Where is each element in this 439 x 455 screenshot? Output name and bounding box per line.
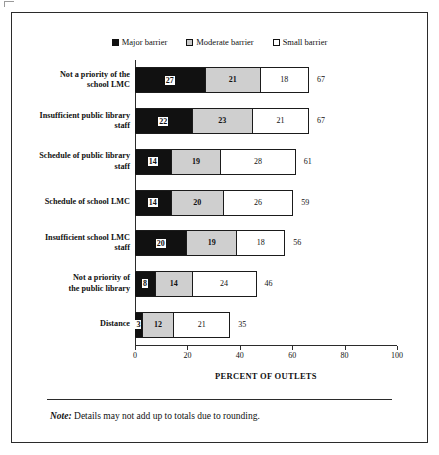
bar-segment-moderate: 14	[156, 272, 193, 296]
bar-segment-value: 22	[157, 116, 169, 127]
bar-row-total: 46	[265, 279, 273, 288]
note-divider	[47, 399, 392, 400]
stacked-bar: 31221	[135, 312, 230, 338]
bar-segment-value: 20	[155, 238, 167, 249]
bar-segment-small: 21	[253, 109, 308, 133]
bar-segment-small: 18	[237, 231, 284, 255]
x-axis-tick-label: 0	[133, 351, 137, 360]
x-axis-tick	[135, 346, 136, 350]
x-axis-title: PERCENT OF OUTLETS	[135, 371, 397, 381]
bar-row: 8142446	[135, 271, 419, 297]
bar-row: 14192861	[135, 149, 419, 175]
bar-row-total: 35	[238, 320, 246, 329]
legend-label-major: Major barrier	[122, 37, 168, 47]
legend-swatch-major-icon	[112, 39, 119, 46]
bar-segment-value: 24	[220, 280, 228, 288]
bar-segment-moderate: 19	[187, 231, 237, 255]
bar-segment-value: 20	[193, 199, 201, 207]
legend-item-small: Small barrier	[273, 37, 328, 47]
bar-segment-value: 12	[154, 321, 162, 329]
bar-segment-moderate: 12	[143, 313, 174, 337]
figure-note: Note: Details may not add up to totals d…	[50, 411, 260, 421]
bar-segment-moderate: 23	[193, 109, 253, 133]
bar-segment-value: 14	[147, 197, 159, 208]
y-axis-category-label: Insufficient school LMCstaff	[26, 233, 130, 254]
y-axis-category-label: Distance	[26, 319, 130, 330]
stacked-bar: 142026	[135, 190, 293, 216]
bar-segment-major: 3	[135, 313, 143, 337]
x-axis-tick	[397, 346, 398, 350]
bar-segment-small: 21	[174, 313, 229, 337]
bar-segment-small: 26	[224, 191, 292, 215]
bar-row-total: 67	[317, 75, 325, 84]
bar-segment-moderate: 19	[172, 150, 222, 174]
y-axis-category-label: Schedule of school LMC	[26, 197, 130, 208]
bar-segment-value: 19	[208, 239, 216, 247]
bar-segment-value: 21	[276, 117, 284, 125]
chart-legend: Major barrier Moderate barrier Small bar…	[12, 37, 427, 47]
x-axis-tick-label: 20	[183, 351, 191, 360]
x-axis-tick	[187, 346, 188, 350]
bar-segment-small: 28	[221, 150, 294, 174]
x-axis-tick-label: 80	[341, 351, 349, 360]
y-axis-category-labels: Not a priority of theschool LMCInsuffici…	[26, 60, 130, 345]
x-axis-tick	[345, 346, 346, 350]
bar-segment-major: 22	[135, 109, 193, 133]
x-axis-tick-label: 100	[391, 351, 403, 360]
bar-segment-major: 14	[135, 150, 172, 174]
bar-segment-major: 27	[135, 68, 206, 92]
stacked-bar: 81424	[135, 271, 257, 297]
x-axis-tick-label: 60	[288, 351, 296, 360]
bar-segment-value: 18	[280, 76, 288, 84]
bar-segment-value: 19	[192, 158, 200, 166]
plot-area: 2721186722232167141928611420265920191856…	[135, 60, 419, 345]
bar-segment-small: 18	[261, 68, 308, 92]
note-label: Note:	[50, 411, 72, 421]
legend-item-major: Major barrier	[112, 37, 168, 47]
y-axis-category-label: Insufficient public librarystaff	[26, 111, 130, 132]
y-axis-category-label: Not a priority ofthe public library	[26, 273, 130, 294]
page-corner-mark	[4, 1, 14, 7]
legend-label-moderate: Moderate barrier	[196, 37, 253, 47]
note-text: Details may not add up to totals due to …	[74, 411, 260, 421]
bar-row-total: 59	[301, 198, 309, 207]
bar-segment-small: 24	[193, 272, 256, 296]
bar-segment-major: 20	[135, 231, 187, 255]
bar-segment-moderate: 20	[172, 191, 224, 215]
x-axis-tick	[292, 346, 293, 350]
stacked-bar: 272118	[135, 67, 309, 93]
y-axis-category-label: Not a priority of theschool LMC	[26, 70, 130, 91]
bar-segment-value: 3	[135, 319, 142, 330]
bar-segment-value: 14	[170, 280, 178, 288]
figure-frame: Major barrier Moderate barrier Small bar…	[11, 12, 428, 443]
bar-row-total: 67	[317, 116, 325, 125]
bar-segment-value: 26	[254, 199, 262, 207]
bar-row-total: 56	[293, 238, 301, 247]
x-axis-tick	[240, 346, 241, 350]
legend-item-moderate: Moderate barrier	[186, 37, 253, 47]
y-axis-category-label: Schedule of public librarystaff	[26, 151, 130, 172]
legend-swatch-moderate-icon	[186, 39, 193, 46]
bar-segment-major: 14	[135, 191, 172, 215]
stacked-bar-rows: 2721186722232167141928611420265920191856…	[135, 60, 419, 345]
bar-row: 3122135	[135, 312, 419, 338]
figure-page: Major barrier Moderate barrier Small bar…	[0, 0, 439, 455]
legend-swatch-small-icon	[273, 39, 280, 46]
bar-segment-value: 28	[254, 158, 262, 166]
bar-segment-moderate: 21	[206, 68, 261, 92]
bar-segment-value: 14	[147, 156, 159, 167]
bar-segment-value: 18	[257, 239, 265, 247]
stacked-bar: 201918	[135, 230, 285, 256]
x-axis-tick-labels: 020406080100	[135, 351, 397, 363]
bar-row: 14202659	[135, 190, 419, 216]
bar-segment-value: 27	[164, 75, 176, 86]
x-axis-tick-label: 40	[236, 351, 244, 360]
bar-segment-value: 21	[198, 321, 206, 329]
bar-segment-value: 21	[229, 76, 237, 84]
bar-segment-value: 8	[141, 278, 149, 289]
bar-row-total: 61	[304, 157, 312, 166]
stacked-bar: 141928	[135, 149, 296, 175]
stacked-bar: 222321	[135, 108, 309, 134]
legend-label-small: Small barrier	[283, 37, 328, 47]
bar-row: 27211867	[135, 67, 419, 93]
